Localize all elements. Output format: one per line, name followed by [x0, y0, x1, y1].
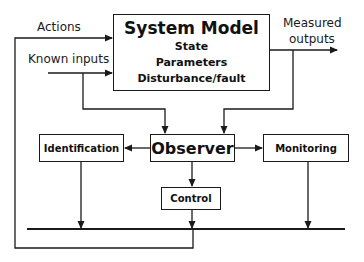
known-inputs-label: Known inputs [28, 52, 109, 66]
identification-block: Identification [39, 134, 124, 162]
system-model-title: System Model [124, 17, 259, 39]
observer-block: Observer [150, 134, 235, 162]
identification-label: Identification [44, 143, 119, 154]
control-block: Control [161, 187, 221, 210]
measured-outputs-label-line1: Measured [283, 16, 342, 30]
measured-outputs-label-line2: outputs [289, 32, 335, 46]
system-model-item-state: State [175, 39, 208, 55]
observer-label: Observer [151, 139, 234, 158]
system-model-item-disturbance: Disturbance/fault [137, 71, 245, 87]
monitoring-block: Monitoring [263, 134, 349, 162]
monitoring-label: Monitoring [275, 143, 337, 154]
actions-label: Actions [37, 20, 81, 34]
system-model-block: System Model State Parameters Disturbanc… [113, 14, 270, 91]
control-label: Control [170, 193, 211, 204]
system-model-item-parameters: Parameters [156, 55, 228, 71]
